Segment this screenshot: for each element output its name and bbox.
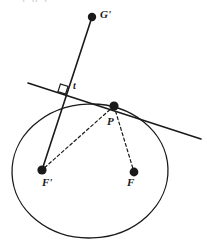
geometry-diagram: j p j G' t P F' F — [0, 0, 207, 243]
point-label-p: P — [107, 116, 114, 127]
point-p — [109, 101, 118, 110]
right-angle-marker-icon — [58, 84, 68, 94]
point-f-prime — [37, 165, 46, 174]
point-label-f-prime: F' — [42, 177, 52, 188]
ellipse-curve — [10, 101, 171, 240]
diagram-canvas — [0, 0, 207, 243]
point-label-f: F — [127, 177, 134, 188]
point-label-t: t — [73, 81, 76, 91]
point-g-prime — [88, 13, 96, 21]
point-label-g-prime: G' — [100, 9, 111, 20]
